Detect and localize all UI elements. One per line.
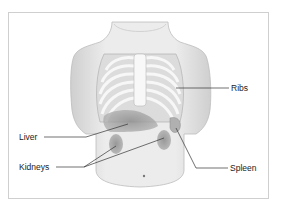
navel xyxy=(143,175,145,177)
label-spleen: Spleen xyxy=(230,164,256,173)
kidney-left xyxy=(109,134,123,154)
label-liver: Liver xyxy=(19,133,37,142)
rib-cage xyxy=(97,54,184,122)
label-kidneys: Kidneys xyxy=(19,163,49,172)
spleen xyxy=(170,117,180,132)
label-ribs: Ribs xyxy=(231,84,248,93)
sternum xyxy=(134,54,146,106)
torso-illustration xyxy=(0,0,281,208)
